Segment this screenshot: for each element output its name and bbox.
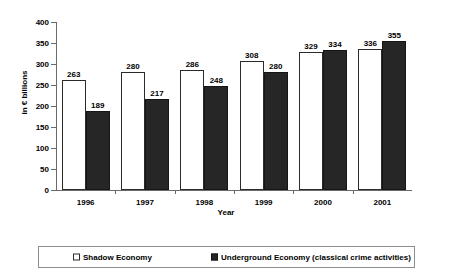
x-axis-category-label: 1996: [77, 198, 95, 207]
bar: 189: [86, 111, 110, 190]
x-axis-category-label: 1998: [195, 198, 213, 207]
y-axis-tick: [51, 85, 56, 86]
y-axis-tick-label: 50: [40, 165, 49, 174]
y-axis-tick: [51, 22, 56, 23]
bar: 336: [358, 49, 382, 190]
y-axis-tick: [51, 148, 56, 149]
y-axis-tick: [51, 106, 56, 107]
bar-chart: in € billions 05010015020025030035040026…: [0, 0, 452, 275]
legend-item-underground-economy: Underground Economy (classical crime act…: [211, 253, 411, 262]
bar: 334: [323, 50, 347, 190]
bar: 286: [180, 70, 204, 190]
bar-value-label: 217: [150, 89, 163, 98]
x-axis-tick: [293, 190, 294, 194]
x-axis-category-label: 2000: [314, 198, 332, 207]
bar-value-label: 248: [210, 76, 223, 85]
x-axis-category-label: 1997: [136, 198, 154, 207]
y-axis-tick-label: 400: [36, 18, 49, 27]
y-axis-tick-label: 150: [36, 123, 49, 132]
y-axis-title: in € billions: [20, 33, 29, 153]
legend: Shadow Economy Underground Economy (clas…: [38, 246, 415, 268]
bar: 263: [62, 80, 86, 190]
y-axis-tick: [51, 190, 56, 191]
bar-value-label: 286: [186, 60, 199, 69]
x-axis-category-label: 1999: [255, 198, 273, 207]
bar-value-label: 263: [67, 70, 80, 79]
x-axis-tick: [353, 190, 354, 194]
bar-value-label: 189: [91, 101, 104, 110]
x-axis-tick: [234, 190, 235, 194]
filled-square-marker-icon: [211, 254, 218, 261]
bar-value-label: 334: [328, 40, 341, 49]
y-axis-tick-label: 350: [36, 39, 49, 48]
x-axis-tick: [115, 190, 116, 194]
x-axis-tick: [175, 190, 176, 194]
legend-item-shadow-economy: Shadow Economy: [73, 253, 152, 262]
open-square-marker-icon: [73, 254, 80, 261]
bar-value-label: 336: [364, 39, 377, 48]
legend-label: Shadow Economy: [83, 253, 152, 262]
plot-area: 0501001502002503003504002631891996280217…: [56, 22, 412, 190]
bar-value-label: 280: [126, 62, 139, 71]
bar: 280: [121, 72, 145, 190]
bar-value-label: 355: [388, 31, 401, 40]
bar: 280: [264, 72, 288, 190]
bar-value-label: 308: [245, 51, 258, 60]
bar: 248: [204, 86, 228, 190]
y-axis-tick: [51, 169, 56, 170]
y-axis-tick-label: 100: [36, 144, 49, 153]
y-axis-line: [56, 22, 57, 190]
y-axis-tick-label: 200: [36, 102, 49, 111]
bar: 308: [240, 61, 264, 190]
y-axis-tick-label: 250: [36, 81, 49, 90]
y-axis-tick-label: 0: [45, 186, 49, 195]
x-axis-category-label: 2001: [373, 198, 391, 207]
y-axis-tick: [51, 127, 56, 128]
bar: 329: [299, 52, 323, 190]
bar: 217: [145, 99, 169, 190]
y-axis-tick-label: 300: [36, 60, 49, 69]
bar: 355: [382, 41, 406, 190]
y-axis-tick: [51, 64, 56, 65]
bar-value-label: 280: [269, 62, 282, 71]
y-axis-tick: [51, 43, 56, 44]
bar-value-label: 329: [304, 42, 317, 51]
legend-label: Underground Economy (classical crime act…: [221, 253, 411, 262]
x-axis-title: Year: [0, 208, 452, 217]
